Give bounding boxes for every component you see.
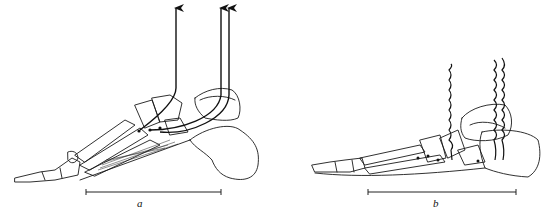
panel-label-a: a	[137, 197, 143, 209]
panel-a-foot	[15, 8, 258, 182]
panel-label-b: b	[433, 197, 439, 209]
foot-diagram	[0, 0, 548, 220]
scale-bar-a	[86, 189, 221, 195]
panel-b-foot	[312, 58, 540, 177]
scale-bar-b	[368, 189, 516, 195]
